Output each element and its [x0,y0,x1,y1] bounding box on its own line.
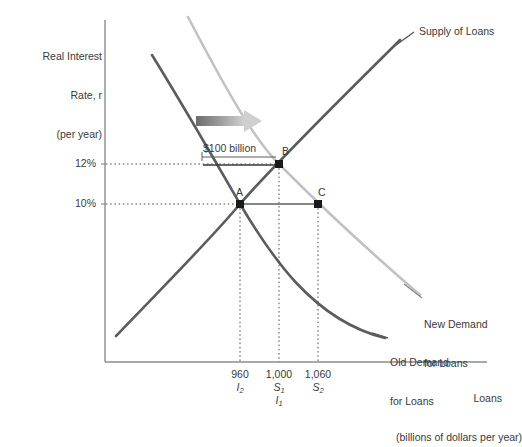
curve-label-supply: Supply of Loans [419,25,494,38]
x-tick-sub-s2-index: 2 [319,386,323,395]
point-label-b: B [282,145,289,157]
y-axis-title: Real Interest Rate, r (per year) [18,24,102,167]
curve-supply [116,40,400,336]
x-tick-label-1060: 1,060 [291,368,345,380]
point-label-a: A [236,186,243,198]
annotation-shift-amount: $100 billion [203,142,256,154]
curve-label-old-demand-line2: for Loans [390,395,449,408]
curve-label-old-demand-line1: Old Demand [390,356,449,369]
y-axis-title-line1: Real Interest [18,50,102,63]
y-axis-title-line3: (per year) [18,128,102,141]
leader-supply [392,32,414,48]
y-tick-label-10: 10% [56,197,96,209]
y-axis-title-line2: Rate, r [18,89,102,102]
y-tick-label-12: 12% [56,157,96,169]
x-tick-sub-i2-index: 2 [239,386,243,395]
curve-old-demand [152,55,385,338]
point-label-c: C [318,186,326,198]
curve-label-old-demand: Old Demand for Loans [390,330,449,434]
point-marker-c [314,200,322,208]
curve-new-demand [188,17,420,295]
x-tick-sub-s2: S2 [291,381,345,395]
leader-new-demand [404,284,422,298]
point-marker-a [236,200,244,208]
x-tick-sub-i1: I1 [252,394,306,408]
point-marker-b [275,160,283,168]
x-tick-sub-i1-index: 1 [278,399,282,408]
